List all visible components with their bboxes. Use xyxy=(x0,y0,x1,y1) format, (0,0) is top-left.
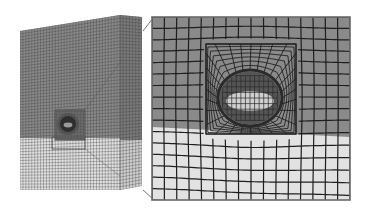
front-face xyxy=(20,0,120,190)
detail-body xyxy=(152,15,351,208)
overview-block-model xyxy=(20,0,142,215)
side-face xyxy=(120,0,142,215)
detail-zoom-view xyxy=(152,15,351,208)
mesh-diagram xyxy=(0,0,368,215)
mesh-figure xyxy=(0,0,368,215)
